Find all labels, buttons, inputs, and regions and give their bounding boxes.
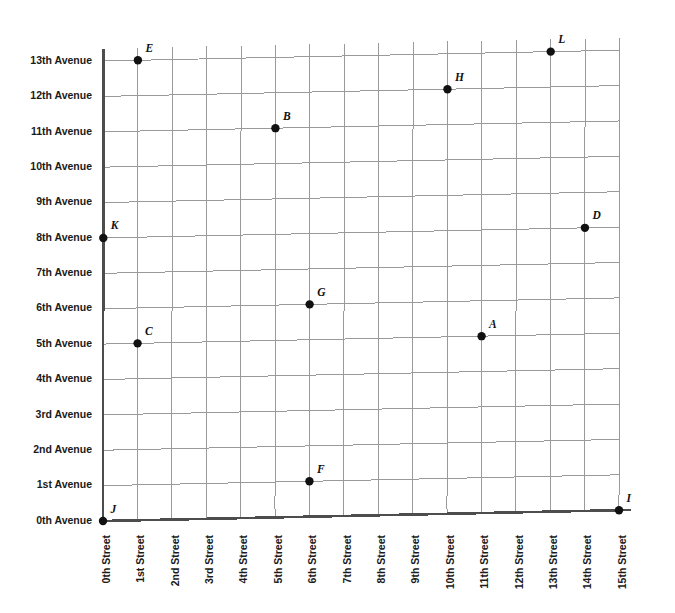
data-point[interactable]: H <box>443 71 465 94</box>
gridline-vertical <box>550 39 551 511</box>
data-point-marker[interactable] <box>305 477 313 485</box>
gridline-vertical <box>619 38 620 510</box>
data-point-marker[interactable] <box>133 339 141 347</box>
gridline-vertical <box>481 41 482 513</box>
y-tick-label: 8th Avenue <box>36 231 92 243</box>
y-tick-label: 5th Avenue <box>36 337 92 349</box>
data-point-label: H <box>454 71 465 83</box>
y-tick-label: 4th Avenue <box>36 372 92 384</box>
data-point[interactable]: E <box>134 42 154 65</box>
y-axis-tick-labels: 0th Avenue1st Avenue2nd Avenue3rd Avenue… <box>30 54 92 526</box>
y-tick-label: 2nd Avenue <box>33 443 92 455</box>
x-tick-label: 7th Street <box>341 535 353 584</box>
x-tick-label: 5th Street <box>272 535 284 584</box>
data-point-label: L <box>557 33 565 45</box>
data-point[interactable]: D <box>581 209 602 232</box>
gridline-horizontal <box>104 50 620 61</box>
gridline-vertical <box>378 43 379 515</box>
data-point-label: I <box>626 492 632 504</box>
data-point-marker[interactable] <box>271 124 279 132</box>
data-point[interactable]: G <box>305 286 326 309</box>
y-tick-label: 9th Avenue <box>36 195 92 207</box>
x-tick-label: 9th Street <box>409 535 421 584</box>
gridline-vertical <box>241 46 242 518</box>
y-tick-label: 12th Avenue <box>30 89 92 101</box>
gridline-vertical <box>516 40 517 512</box>
y-tick-label: 7th Avenue <box>36 266 92 278</box>
data-point-marker[interactable] <box>547 47 555 55</box>
y-tick-label: 3rd Avenue <box>36 408 93 420</box>
data-point[interactable]: A <box>477 318 497 341</box>
gridline-horizontal <box>103 121 619 132</box>
y-tick-label: 1st Avenue <box>37 478 92 490</box>
y-tick-label: 0th Avenue <box>36 514 92 526</box>
y-tick-label: 10th Avenue <box>30 160 92 172</box>
gridline-vertical <box>344 44 345 516</box>
data-point-layer: ABCDEFGHIJKL <box>99 33 632 525</box>
gridline-horizontal <box>103 333 619 344</box>
chart-canvas: 0th Avenue1st Avenue2nd Avenue3rd Avenue… <box>0 0 675 613</box>
data-point-label: D <box>591 209 601 221</box>
x-tick-label: 0th Street <box>100 535 112 584</box>
data-point-label: G <box>317 286 326 298</box>
data-point-label: C <box>145 325 153 337</box>
data-point[interactable]: C <box>133 325 153 348</box>
y-tick-label: 11th Avenue <box>31 125 92 137</box>
x-tick-label: 13th Street <box>547 535 559 590</box>
x-tick-label: 2nd Street <box>169 535 181 587</box>
x-tick-label: 14th Street <box>581 535 593 590</box>
gridline-horizontal <box>103 86 619 97</box>
y-axis-line <box>103 49 104 521</box>
x-tick-label: 11th Street <box>478 535 490 589</box>
data-point-label: A <box>488 318 497 330</box>
data-point-marker[interactable] <box>477 332 485 340</box>
x-tick-label: 12th Street <box>513 535 525 590</box>
gridline-horizontal <box>103 192 619 203</box>
scatter-chart: 0th Avenue1st Avenue2nd Avenue3rd Avenue… <box>0 0 675 613</box>
axis-layer <box>103 49 631 521</box>
data-point-marker[interactable] <box>99 517 107 525</box>
data-point-label: K <box>110 219 120 231</box>
gridline-horizontal <box>103 298 619 309</box>
data-point-label: F <box>316 463 325 475</box>
y-tick-label: 6th Avenue <box>36 301 92 313</box>
x-tick-label: 8th Street <box>375 535 387 584</box>
x-axis-line <box>103 510 631 521</box>
data-point-marker[interactable] <box>99 234 107 242</box>
data-point-marker[interactable] <box>134 56 142 64</box>
data-point-label: J <box>110 503 118 515</box>
y-tick-label: 13th Avenue <box>30 54 92 66</box>
gridline-horizontal <box>103 404 619 415</box>
gridline-vertical <box>585 39 586 511</box>
data-point-marker[interactable] <box>615 506 623 514</box>
x-tick-label: 3rd Street <box>203 535 215 585</box>
gridline-vertical <box>275 45 276 517</box>
x-tick-label: 15th Street <box>616 535 628 590</box>
gridline-horizontal <box>103 369 619 380</box>
x-tick-label: 6th Street <box>306 535 318 584</box>
data-point[interactable]: L <box>547 33 566 56</box>
x-tick-label: 4th Street <box>237 535 249 584</box>
data-point-marker[interactable] <box>581 224 589 232</box>
gridline-vertical <box>137 48 138 520</box>
data-point-marker[interactable] <box>443 85 451 93</box>
data-point-label: B <box>282 110 291 122</box>
gridline-vertical <box>172 47 173 519</box>
gridline-horizontal <box>103 227 619 238</box>
data-point-marker[interactable] <box>305 300 313 308</box>
gridline-vertical <box>447 41 448 513</box>
x-tick-label: 1st Street <box>134 535 146 583</box>
gridline-horizontal <box>103 263 619 274</box>
gridline-vertical <box>309 44 310 516</box>
data-point[interactable]: B <box>271 110 291 133</box>
x-tick-label: 10th Street <box>444 535 456 590</box>
data-point-label: E <box>144 42 153 54</box>
gridline-vertical <box>206 46 207 518</box>
gridline-horizontal <box>103 475 619 486</box>
gridline-horizontal <box>103 156 619 167</box>
gridline-horizontal <box>103 439 619 450</box>
gridline-vertical <box>413 42 414 514</box>
x-axis-tick-labels: 0th Street1st Street2nd Street3rd Street… <box>100 535 628 590</box>
data-point[interactable]: F <box>305 463 325 486</box>
grid-layer <box>103 38 620 521</box>
